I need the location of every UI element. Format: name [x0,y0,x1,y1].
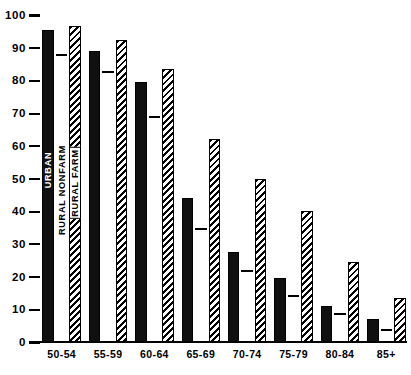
bar-rural-nonfarm [102,71,114,342]
y-axis-tick: 70 [12,106,40,120]
legend-label-rural-farm: RURAL FARM [69,147,81,219]
y-axis-tick-label: 40 [12,205,26,217]
bar-rural-nonfarm [334,313,346,342]
plot-area: URBANRURAL NONFARMRURAL FARM [40,15,411,342]
x-axis-tick-label: 85+ [359,348,411,360]
y-axis-tick-label: 100 [5,9,26,21]
legend-label-rural-nonfarm: RURAL NONFARM [57,145,67,235]
y-axis-tick-label: 90 [12,42,26,54]
bar-rural-farm [162,69,174,342]
y-axis-tick: 80 [12,73,40,87]
x-axis-baseline [40,341,407,343]
bar-urban [182,198,194,342]
bar-urban [135,82,147,342]
y-axis-tick: 100 [5,8,40,22]
bar-rural-nonfarm [195,228,207,342]
bar-urban [228,252,240,342]
y-axis-tick-label: 30 [12,238,26,250]
bar-rural-farm [394,298,406,342]
bar-rural-nonfarm [288,295,300,342]
bar-rural-farm [209,139,221,342]
bar-urban [89,51,101,342]
bar-group [89,15,128,342]
bar-chart: 0102030405060708090100 URBANRURAL NONFAR… [0,0,411,375]
y-axis-tick: 40 [12,204,40,218]
bar-rural-farm [116,40,128,342]
y-axis-tick-mark [29,145,40,147]
y-axis-tick-label: 50 [12,173,26,185]
y-axis-tick: 50 [12,172,40,186]
bar-urban [367,319,379,342]
y-axis-tick-mark [29,211,40,213]
bar-rural-farm [348,262,360,342]
y-axis-tick-mark [29,14,40,16]
y-axis-tick: 0 [19,335,40,349]
y-axis-tick-mark [29,276,40,278]
bar-urban [321,306,333,342]
bar-group [274,15,313,342]
y-axis-tick-mark [29,47,40,49]
y-axis-tick: 60 [12,139,40,153]
y-axis-tick: 20 [12,270,40,284]
y-axis-tick-mark [29,309,40,311]
y-axis-tick: 90 [12,41,40,55]
bar-rural-farm [301,211,313,342]
y-axis-tick-label: 20 [12,271,26,283]
bar-group [321,15,360,342]
bar-rural-farm [255,179,267,343]
y-axis-tick-mark [29,178,40,180]
bar-rural-nonfarm [241,270,253,342]
y-axis-tick-mark [29,243,40,245]
y-axis: 0102030405060708090100 [0,0,40,375]
y-axis-tick: 30 [12,237,40,251]
y-axis-tick-mark [29,80,40,82]
bar-group [182,15,221,342]
bar-group [367,15,406,342]
y-axis-tick-label: 70 [12,107,26,119]
y-axis-tick-label: 60 [12,140,26,152]
y-axis-tick-label: 80 [12,74,26,86]
y-axis-tick-label: 10 [12,303,26,315]
bar-group [135,15,174,342]
bar-group [228,15,267,342]
y-axis-tick: 10 [12,302,40,316]
legend-label-urban: URBAN [43,152,53,189]
bar-urban [274,278,286,342]
y-axis-tick-label: 0 [19,336,26,348]
y-axis-tick-mark [29,113,40,115]
bar-rural-nonfarm [149,116,161,342]
y-axis-tick-mark [29,341,40,343]
x-axis: 50-5455-5960-6465-6970-7475-7980-8485+ [40,348,411,370]
